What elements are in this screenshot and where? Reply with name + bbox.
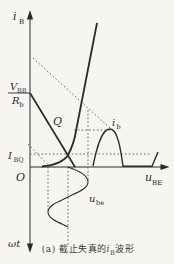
rb-label-sub: b — [20, 101, 24, 109]
caption-text-before: 截止失真的 — [56, 244, 107, 254]
ib-wave-label-sub: b — [117, 123, 121, 131]
ibq-label-sub: BQ — [14, 156, 24, 164]
caption-prefix: (a) — [42, 244, 56, 254]
y-axis-arrow-up-icon — [27, 10, 33, 20]
q-point-label: Q — [53, 115, 62, 128]
ube-wave-label-sub: be — [96, 199, 104, 207]
y-axis-label-sub: B — [19, 18, 24, 26]
figure-cutoff-distortion: i B u BE ωt O V BB R b I BQ Q i b u be (… — [0, 0, 174, 264]
caption-text-after: 波形 — [115, 244, 134, 254]
x-axis-arrow-right-icon — [161, 164, 170, 170]
y-axis-label: i — [13, 10, 17, 23]
diagram-canvas: i B u BE ωt O V BB R b I BQ Q i b u be — [0, 0, 174, 264]
input-characteristic-curve — [42, 23, 97, 167]
vbb-label-sub: BB — [17, 87, 27, 95]
negative-peak-load-line-dotted — [28, 144, 50, 167]
load-line — [30, 93, 75, 167]
ibq-label: I — [7, 150, 13, 161]
x-axis-label-sub: BE — [152, 179, 162, 187]
ube-wave-label: u — [89, 193, 95, 204]
ib-wave-label: i — [112, 117, 115, 128]
origin-label: O — [16, 171, 25, 184]
figure-caption: (a) 截止失真的iB波形 — [10, 242, 166, 257]
ib-waveform — [93, 129, 158, 166]
